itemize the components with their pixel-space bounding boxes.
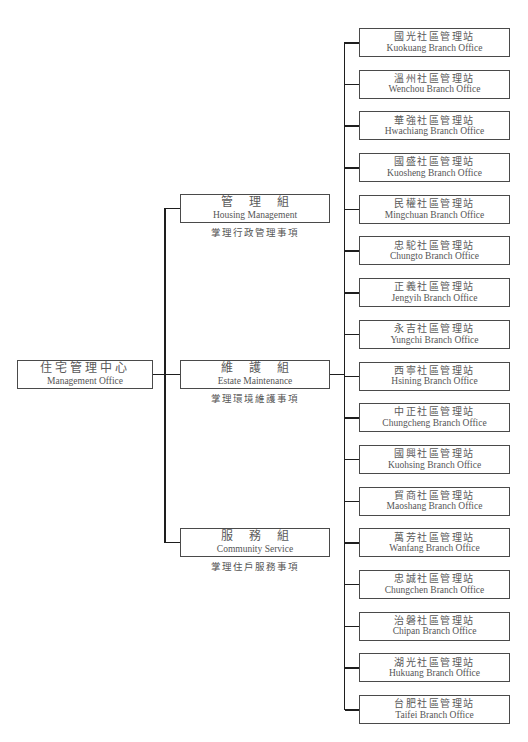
division-title-zh: 管理組 [221, 196, 304, 210]
branch-title-zh: 溫州社區管理站 [394, 73, 475, 85]
branch-connector [345, 709, 359, 711]
division-title-en: Housing Management [213, 210, 297, 221]
branch-title-en: Mingchuan Branch Office [385, 210, 485, 221]
estate-maintenance-box[interactable]: 維護組 Estate Maintenance [180, 360, 330, 389]
branch-title-en: Chipan Branch Office [393, 626, 477, 637]
community-service-box[interactable]: 服務組 Community Service [180, 528, 330, 557]
main-to-bus-connector [153, 374, 180, 376]
branch-title-zh: 中正社區管理站 [394, 406, 475, 418]
housing-connector [164, 208, 180, 210]
branch-office-chipan[interactable]: 治磐社區管理站Chipan Branch Office [359, 612, 510, 641]
branch-title-en: Chungchen Branch Office [385, 585, 485, 596]
branch-title-en: Hwachiang Branch Office [385, 126, 485, 137]
branch-office-chungto[interactable]: 忠駝社區管理站Chungto Branch Office [359, 236, 510, 265]
branch-title-zh: 民權社區管理站 [394, 198, 475, 210]
branch-office-jengyih[interactable]: 正義社區管理站Jengyih Branch Office [359, 278, 510, 307]
branch-title-en: Taifei Branch Office [395, 710, 473, 721]
main-office-title-en: Management Office [47, 376, 123, 387]
branch-connector [345, 584, 359, 586]
branch-office-kuohsing[interactable]: 國興社區管理站Kuohsing Branch Office [359, 445, 510, 474]
division-title-zh: 服務組 [221, 530, 304, 544]
management-office-box[interactable]: 住宅管理中心 Management Office [17, 360, 153, 389]
branch-title-en: Chungto Branch Office [390, 251, 479, 262]
branch-title-en: Wenchou Branch Office [389, 84, 481, 95]
branch-title-zh: 忠駝社區管理站 [394, 240, 475, 252]
branch-office-kuosheng[interactable]: 國盛社區管理站Kuosheng Branch Office [359, 153, 510, 182]
branch-title-en: Kuosheng Branch Office [387, 168, 482, 179]
branch-title-en: Hukuang Branch Office [389, 668, 480, 679]
branch-connector [345, 42, 359, 44]
branch-office-hwachiang[interactable]: 華強社區管理站Hwachiang Branch Office [359, 111, 510, 140]
housing-management-caption: 掌理行政管理事項 [180, 225, 330, 239]
branch-connector [345, 292, 359, 294]
branch-title-zh: 貿商社區管理站 [394, 490, 475, 502]
branch-connector [345, 626, 359, 628]
branch-office-hukuang[interactable]: 湖光社區管理站Hukuang Branch Office [359, 653, 510, 682]
branch-title-zh: 國盛社區管理站 [394, 156, 475, 168]
branch-title-en: Wanfang Branch Office [389, 543, 479, 554]
branch-connector [345, 334, 359, 336]
community-connector [164, 542, 180, 544]
branch-office-kuokuang[interactable]: 國光社區管理站Kuokuang Branch Office [359, 28, 510, 57]
branch-title-zh: 國興社區管理站 [394, 448, 475, 460]
branch-title-zh: 國光社區管理站 [394, 31, 475, 43]
housing-management-box[interactable]: 管理組 Housing Management [180, 194, 330, 223]
division-title-zh: 維護組 [221, 362, 304, 376]
branch-title-en: Kuokuang Branch Office [387, 43, 483, 54]
branch-title-zh: 台肥社區管理站 [394, 698, 475, 710]
branch-office-chungchen[interactable]: 忠誠社區管理站Chungchen Branch Office [359, 570, 510, 599]
branch-title-en: Chungcheng Branch Office [382, 418, 486, 429]
branch-office-chungcheng[interactable]: 中正社區管理站Chungcheng Branch Office [359, 403, 510, 432]
division-bus-vertical [164, 208, 166, 543]
branch-connector [345, 542, 359, 544]
division-title-en: Community Service [217, 544, 293, 555]
branch-office-wenchou[interactable]: 溫州社區管理站Wenchou Branch Office [359, 70, 510, 99]
branch-title-en: Yungchi Branch Office [391, 335, 479, 346]
branch-office-list: 國光社區管理站Kuokuang Branch Office 溫州社區管理站Wen… [359, 28, 510, 724]
branch-connector [345, 209, 359, 211]
main-office-title-zh: 住宅管理中心 [40, 362, 130, 376]
branch-office-taifei[interactable]: 台肥社區管理站Taifei Branch Office [359, 695, 510, 724]
branch-connector [345, 167, 359, 169]
branch-title-en: Hsining Branch Office [391, 376, 477, 387]
branch-office-wanfang[interactable]: 萬芳社區管理站Wanfang Branch Office [359, 528, 510, 557]
branch-connector [345, 125, 359, 127]
branch-connector [345, 250, 359, 252]
branch-title-zh: 治磐社區管理站 [394, 615, 475, 627]
branch-office-maoshang[interactable]: 貿商社區管理站Maoshang Branch Office [359, 487, 510, 516]
branch-office-hsining[interactable]: 西寧社區管理站Hsining Branch Office [359, 362, 510, 391]
branch-connector [345, 459, 359, 461]
division-title-en: Estate Maintenance [218, 376, 293, 387]
community-service-caption: 掌理住戶服務事項 [180, 559, 330, 573]
branch-title-zh: 西寧社區管理站 [394, 365, 475, 377]
branch-office-mingchuan[interactable]: 民權社區管理站Mingchuan Branch Office [359, 195, 510, 224]
branch-office-yungchi[interactable]: 永吉社區管理站Yungchi Branch Office [359, 320, 510, 349]
branch-title-zh: 湖光社區管理站 [394, 657, 475, 669]
branch-connector [345, 501, 359, 503]
branch-connector [345, 417, 359, 419]
branch-title-zh: 萬芳社區管理站 [394, 532, 475, 544]
branch-title-en: Kuohsing Branch Office [388, 460, 481, 471]
branch-title-en: Maoshang Branch Office [387, 501, 483, 512]
branch-title-zh: 忠誠社區管理站 [394, 573, 475, 585]
branch-connector [345, 84, 359, 86]
branch-connector [345, 667, 359, 669]
branch-connector [345, 376, 359, 378]
branch-title-en: Jengyih Branch Office [392, 293, 478, 304]
branch-title-zh: 永吉社區管理站 [394, 323, 475, 335]
branch-title-zh: 華強社區管理站 [394, 115, 475, 127]
branch-title-zh: 正義社區管理站 [394, 281, 475, 293]
estate-maintenance-caption: 掌理環境維護事項 [180, 391, 330, 405]
